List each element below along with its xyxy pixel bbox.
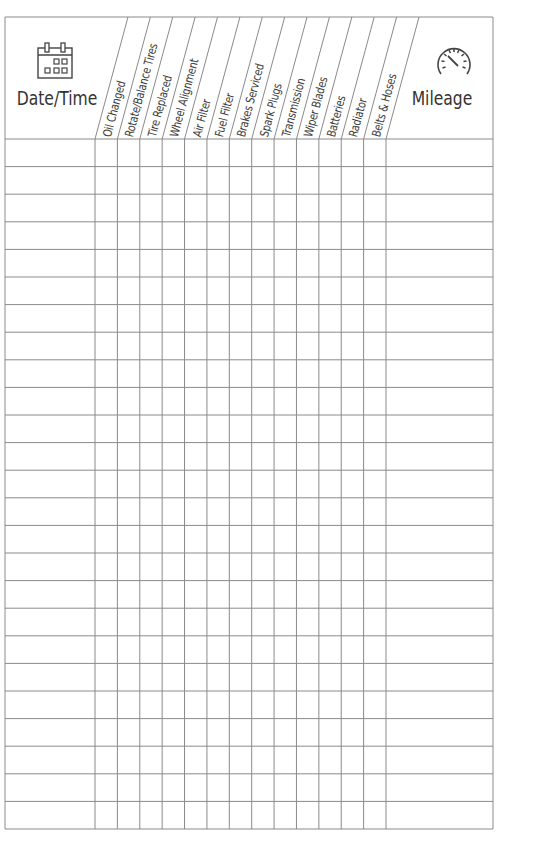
service-check-cell[interactable]	[229, 719, 251, 747]
date-cell[interactable]	[5, 443, 95, 471]
service-check-cell[interactable]	[185, 498, 207, 526]
service-check-cell[interactable]	[117, 663, 139, 691]
service-check-cell[interactable]	[162, 719, 184, 747]
date-cell[interactable]	[5, 498, 95, 526]
service-check-cell[interactable]	[341, 553, 363, 581]
service-check-cell[interactable]	[117, 249, 139, 277]
service-check-cell[interactable]	[207, 719, 229, 747]
mileage-cell[interactable]	[386, 774, 493, 802]
service-check-cell[interactable]	[207, 332, 229, 360]
service-check-cell[interactable]	[341, 691, 363, 719]
service-check-cell[interactable]	[229, 581, 251, 609]
service-check-cell[interactable]	[140, 608, 162, 636]
service-check-cell[interactable]	[274, 581, 296, 609]
mileage-cell[interactable]	[386, 139, 493, 167]
service-check-cell[interactable]	[95, 443, 117, 471]
service-check-cell[interactable]	[140, 636, 162, 664]
mileage-cell[interactable]	[386, 194, 493, 222]
service-check-cell[interactable]	[319, 801, 341, 829]
service-check-cell[interactable]	[207, 498, 229, 526]
service-check-cell[interactable]	[185, 332, 207, 360]
service-check-cell[interactable]	[252, 277, 274, 305]
service-check-cell[interactable]	[140, 498, 162, 526]
service-check-cell[interactable]	[319, 608, 341, 636]
service-check-cell[interactable]	[252, 581, 274, 609]
service-check-cell[interactable]	[162, 553, 184, 581]
service-check-cell[interactable]	[364, 332, 386, 360]
service-check-cell[interactable]	[207, 691, 229, 719]
service-check-cell[interactable]	[207, 167, 229, 195]
service-check-cell[interactable]	[364, 249, 386, 277]
service-check-cell[interactable]	[140, 663, 162, 691]
service-check-cell[interactable]	[229, 194, 251, 222]
service-check-cell[interactable]	[140, 360, 162, 388]
service-check-cell[interactable]	[341, 498, 363, 526]
service-check-cell[interactable]	[95, 277, 117, 305]
service-check-cell[interactable]	[95, 139, 117, 167]
service-check-cell[interactable]	[296, 415, 318, 443]
service-check-cell[interactable]	[117, 581, 139, 609]
service-check-cell[interactable]	[341, 360, 363, 388]
service-check-cell[interactable]	[95, 636, 117, 664]
service-check-cell[interactable]	[162, 249, 184, 277]
service-check-cell[interactable]	[319, 774, 341, 802]
service-check-cell[interactable]	[117, 746, 139, 774]
service-check-cell[interactable]	[252, 553, 274, 581]
service-check-cell[interactable]	[117, 719, 139, 747]
service-check-cell[interactable]	[319, 746, 341, 774]
mileage-cell[interactable]	[386, 525, 493, 553]
service-check-cell[interactable]	[140, 139, 162, 167]
service-check-cell[interactable]	[296, 194, 318, 222]
service-check-cell[interactable]	[207, 663, 229, 691]
date-cell[interactable]	[5, 746, 95, 774]
service-check-cell[interactable]	[207, 305, 229, 333]
service-check-cell[interactable]	[341, 305, 363, 333]
service-check-cell[interactable]	[229, 277, 251, 305]
service-check-cell[interactable]	[95, 581, 117, 609]
service-check-cell[interactable]	[296, 691, 318, 719]
service-check-cell[interactable]	[162, 470, 184, 498]
service-check-cell[interactable]	[252, 498, 274, 526]
service-check-cell[interactable]	[252, 139, 274, 167]
mileage-cell[interactable]	[386, 581, 493, 609]
service-check-cell[interactable]	[207, 581, 229, 609]
service-check-cell[interactable]	[140, 415, 162, 443]
service-check-cell[interactable]	[341, 387, 363, 415]
service-check-cell[interactable]	[140, 305, 162, 333]
service-check-cell[interactable]	[296, 746, 318, 774]
service-check-cell[interactable]	[274, 746, 296, 774]
mileage-cell[interactable]	[386, 553, 493, 581]
service-check-cell[interactable]	[229, 801, 251, 829]
service-check-cell[interactable]	[185, 360, 207, 388]
service-check-cell[interactable]	[140, 581, 162, 609]
service-check-cell[interactable]	[252, 691, 274, 719]
service-check-cell[interactable]	[364, 663, 386, 691]
service-check-cell[interactable]	[140, 774, 162, 802]
service-check-cell[interactable]	[296, 387, 318, 415]
service-check-cell[interactable]	[162, 581, 184, 609]
service-check-cell[interactable]	[341, 608, 363, 636]
service-check-cell[interactable]	[162, 167, 184, 195]
service-check-cell[interactable]	[185, 249, 207, 277]
service-check-cell[interactable]	[319, 194, 341, 222]
mileage-cell[interactable]	[386, 608, 493, 636]
service-check-cell[interactable]	[296, 663, 318, 691]
service-check-cell[interactable]	[274, 801, 296, 829]
service-check-cell[interactable]	[140, 194, 162, 222]
service-check-cell[interactable]	[229, 360, 251, 388]
mileage-cell[interactable]	[386, 332, 493, 360]
service-check-cell[interactable]	[319, 525, 341, 553]
service-check-cell[interactable]	[364, 553, 386, 581]
service-check-cell[interactable]	[252, 746, 274, 774]
service-check-cell[interactable]	[319, 222, 341, 250]
service-check-cell[interactable]	[364, 498, 386, 526]
date-cell[interactable]	[5, 139, 95, 167]
service-check-cell[interactable]	[95, 415, 117, 443]
service-check-cell[interactable]	[319, 167, 341, 195]
mileage-cell[interactable]	[386, 415, 493, 443]
mileage-cell[interactable]	[386, 222, 493, 250]
service-check-cell[interactable]	[185, 636, 207, 664]
service-check-cell[interactable]	[95, 525, 117, 553]
mileage-cell[interactable]	[386, 277, 493, 305]
service-check-cell[interactable]	[319, 581, 341, 609]
